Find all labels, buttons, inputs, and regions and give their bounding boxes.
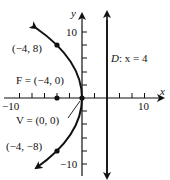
directrix-label-eq: : x = 4 bbox=[119, 52, 148, 64]
x-tick-max-label: 10 bbox=[138, 100, 150, 112]
y-tick-min-label: −10 bbox=[60, 158, 78, 170]
point-upper bbox=[54, 42, 59, 47]
directrix-label: D: x = 4 bbox=[110, 52, 148, 64]
x-tick-min-label: −10 bbox=[2, 100, 20, 112]
directrix-label-prefix: D bbox=[110, 52, 119, 64]
point-upper-label: (−4, 8) bbox=[12, 42, 42, 55]
point-lower-label: (−4, −8) bbox=[6, 140, 43, 153]
focus-point bbox=[54, 95, 59, 100]
focus-label: F = (−4, 0) bbox=[16, 74, 64, 87]
vertex-point bbox=[79, 95, 84, 100]
parabola-curve bbox=[36, 28, 82, 98]
y-axis-label: y bbox=[70, 7, 76, 19]
vertex-pointer bbox=[68, 101, 80, 118]
point-lower bbox=[54, 148, 59, 153]
x-axis-label: x bbox=[159, 85, 165, 97]
y-tick-max-label: 10 bbox=[66, 26, 78, 38]
parabola-diagram: y 10 −10 x −10 10 (−4, 8) F = (−4, 0) V … bbox=[0, 0, 170, 180]
vertex-label: V = (0, 0) bbox=[16, 114, 60, 127]
